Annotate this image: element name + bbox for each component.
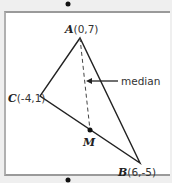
top-anchor-dot-icon <box>66 2 71 7</box>
bottom-anchor-dot-icon <box>66 178 71 183</box>
label-a: A(0,7) <box>64 23 98 36</box>
triangle-diagram: A(0,7) C(-4,1) B(6,-5) M median <box>0 0 172 183</box>
label-median: median <box>121 75 160 87</box>
label-b: B(6,-5) <box>117 166 156 179</box>
arrow-left-icon <box>86 78 92 84</box>
midpoint-m-dot <box>88 128 93 133</box>
label-c: C(-4,1) <box>8 92 45 105</box>
median-line <box>80 38 90 130</box>
label-m: M <box>82 136 96 149</box>
